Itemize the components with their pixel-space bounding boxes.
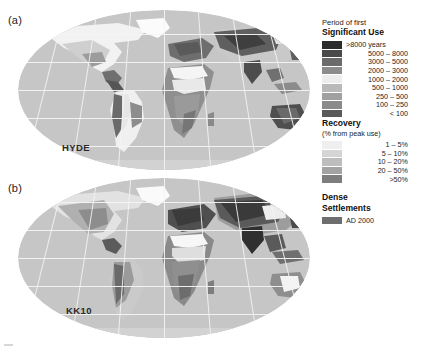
legend-row: 2000 – 3000 bbox=[322, 66, 422, 75]
legend-dense-title-line1: Dense bbox=[322, 192, 422, 203]
legend-swatch bbox=[322, 75, 342, 83]
legend-label: >50% bbox=[346, 175, 408, 184]
legend-swatch bbox=[322, 158, 342, 166]
legend-swatch bbox=[322, 175, 342, 183]
legend-sig-title-line1: Period of first bbox=[322, 18, 422, 27]
legend-row: >50% bbox=[322, 175, 422, 184]
legend-label: < 100 bbox=[346, 109, 408, 118]
legend-row: 10 – 20% bbox=[322, 158, 422, 167]
legend-significant-use: Period of first Significant Use >8000 ye… bbox=[322, 18, 422, 118]
legend-recovery: Recovery (% from peak use) 1 – 5% 5 – 10… bbox=[322, 118, 422, 183]
legend-sig-title-line2: Significant Use bbox=[322, 27, 422, 38]
legend-dense-settlements: Dense Settlements AD 2000 bbox=[322, 192, 422, 225]
legend-row: 500 – 1000 bbox=[322, 83, 422, 92]
legend-swatch bbox=[322, 167, 342, 175]
model-label-kk10: KK10 bbox=[66, 305, 92, 316]
legend-dense-title-line2: Settlements bbox=[322, 203, 422, 214]
graticule-b bbox=[18, 178, 310, 338]
legend-row: 1000 – 2000 bbox=[322, 75, 422, 84]
legend-row: 20 – 50% bbox=[322, 166, 422, 175]
legend-row: >8000 years bbox=[322, 41, 422, 50]
legend-swatch bbox=[322, 58, 342, 66]
model-label-hyde: HYDE bbox=[62, 142, 90, 153]
legend: Period of first Significant Use >8000 ye… bbox=[322, 0, 422, 352]
map-b bbox=[18, 178, 310, 338]
legend-swatch bbox=[322, 93, 342, 101]
figure-container: (a) bbox=[0, 0, 422, 352]
corner-mark bbox=[4, 344, 13, 346]
legend-swatch bbox=[322, 101, 342, 109]
legend-sig-rows: >8000 years 5000 – 8000 3000 – 5000 2000… bbox=[322, 41, 422, 118]
map-panel-b: (b) bbox=[0, 172, 318, 344]
legend-swatch bbox=[322, 67, 342, 75]
legend-swatch bbox=[322, 217, 342, 225]
legend-row: 5000 – 8000 bbox=[322, 49, 422, 58]
globe-b bbox=[18, 178, 310, 338]
legend-recovery-title: Recovery bbox=[322, 118, 422, 129]
legend-swatch bbox=[322, 110, 342, 118]
legend-row: 3000 – 5000 bbox=[322, 58, 422, 67]
legend-recovery-subtitle: (% from peak use) bbox=[322, 129, 422, 138]
legend-row: AD 2000 bbox=[322, 216, 422, 225]
legend-dense-rows: AD 2000 bbox=[322, 216, 422, 225]
legend-row: 250 – 500 bbox=[322, 92, 422, 101]
legend-row: < 100 bbox=[322, 109, 422, 118]
legend-swatch bbox=[322, 50, 342, 58]
legend-row: 5 – 10% bbox=[322, 149, 422, 158]
legend-label: AD 2000 bbox=[346, 216, 408, 225]
legend-swatch bbox=[322, 84, 342, 92]
legend-row: 100 – 250 bbox=[322, 101, 422, 110]
legend-swatch bbox=[322, 150, 342, 158]
legend-swatch bbox=[322, 41, 342, 49]
legend-swatch bbox=[322, 141, 342, 149]
legend-row: 1 – 5% bbox=[322, 141, 422, 150]
map-panel-a: (a) bbox=[0, 4, 318, 176]
legend-recovery-rows: 1 – 5% 5 – 10% 10 – 20% 20 – 50% >50% bbox=[322, 141, 422, 184]
